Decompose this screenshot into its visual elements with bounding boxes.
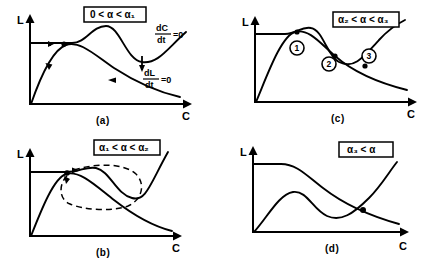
intersection-point-1-c <box>294 29 299 34</box>
panel-d: L C α₃ < α (d) <box>223 132 445 264</box>
condition-box-b: α₁ < α < α₂ <box>94 140 160 155</box>
x-axis-arrowhead <box>183 100 192 109</box>
annotation-dc-equals: =0 <box>173 30 183 40</box>
x-axis-arrowhead <box>173 232 182 241</box>
annotation-dc-numerator: dC <box>156 23 168 33</box>
point-marker-1-c: 1 <box>290 41 304 55</box>
panel-caption-b: (b) <box>96 247 110 258</box>
annotation-dl-numerator: dL <box>144 68 155 78</box>
y-axis-arrowhead <box>249 146 258 155</box>
x-axis-arrowhead <box>400 228 409 237</box>
condition-box-d: α₃ < α <box>339 142 393 157</box>
flow-arrowhead-mid-a <box>108 77 116 83</box>
annotation-dl-denominator: dt <box>145 80 154 90</box>
curve-dl-dt-nullcline-a <box>31 44 180 104</box>
figure-root: L C 0 < α < α₁ dC dt <box>0 0 445 264</box>
condition-label-b: α₁ < α < α₂ <box>99 142 149 153</box>
panel-caption-a: (a) <box>96 115 110 126</box>
y-axis-label: L <box>17 14 24 26</box>
y-axis-label: L <box>240 146 247 158</box>
y-axis-label: L <box>242 16 249 28</box>
annotation-dc-denominator: dt <box>157 35 166 45</box>
annotation-dl-equals: =0 <box>161 75 171 85</box>
annotation-dl-dt-a: dL dt =0 <box>143 68 171 90</box>
point-marker-2-label: 2 <box>327 59 332 69</box>
panel-caption-c: (c) <box>331 113 345 124</box>
panel-c: L C 1 2 3 α₂ < α < α₃ <box>223 0 445 132</box>
x-axis-label: C <box>172 242 180 254</box>
panel-b: L C α₁ < α < α₂ (b) <box>0 132 223 264</box>
x-axis-label: C <box>399 240 407 252</box>
point-marker-2-c: 2 <box>322 57 336 71</box>
condition-box-a: 0 < α < α₁ <box>84 7 146 22</box>
x-axis-label: C <box>407 108 415 120</box>
flow-arrowhead-upper-a <box>48 41 54 47</box>
y-axis-arrowhead <box>26 148 35 157</box>
x-axis-label: C <box>182 110 190 122</box>
y-axis-arrowhead <box>251 16 260 25</box>
condition-label-d: α₃ < α <box>347 144 376 155</box>
condition-label-c: α₂ < α < α₃ <box>338 14 389 25</box>
intersection-point-d <box>360 207 366 213</box>
point-marker-1-label: 1 <box>295 43 300 53</box>
intersection-point-a <box>61 41 66 46</box>
condition-label-a: 0 < α < α₁ <box>90 9 135 20</box>
panel-a: L C 0 < α < α₁ dC dt <box>0 0 223 132</box>
y-axis-arrowhead <box>26 14 35 23</box>
point-marker-3-c: 3 <box>362 49 376 63</box>
curve-dc-dt-nullcline-d <box>254 162 397 232</box>
condition-box-c: α₂ < α < α₃ <box>333 12 399 27</box>
point-marker-3-label: 3 <box>367 51 372 61</box>
annotation-dc-dt-a: dC dt =0 <box>155 23 183 45</box>
intersection-point-b <box>64 170 70 176</box>
y-axis-label: L <box>17 148 24 160</box>
panel-caption-d: (d) <box>325 243 339 254</box>
x-axis-arrowhead <box>408 98 417 107</box>
limit-cycle-arrowhead-left-b <box>64 176 70 184</box>
intersection-point-3-c <box>362 63 367 68</box>
